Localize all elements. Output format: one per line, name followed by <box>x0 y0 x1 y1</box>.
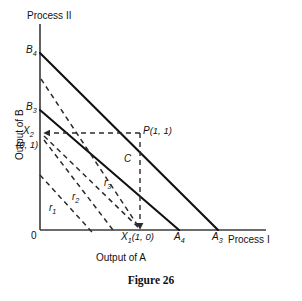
ray-label-r2: r2 <box>72 192 79 204</box>
figure-container: Process II Process I Output of B Output … <box>0 0 302 301</box>
ray-label-r2-sub: 2 <box>75 196 79 205</box>
point-label-p-text: P <box>143 125 150 136</box>
point-label-x2-text: X <box>23 125 30 136</box>
point-label-c: C <box>124 154 131 164</box>
point-label-b4-sub: 4 <box>33 49 37 58</box>
ray-label-r3-sub: 3 <box>107 182 111 191</box>
origin-label: 0 <box>31 231 37 241</box>
point-label-b4-text: B <box>26 44 33 55</box>
dashed-ray-r1 <box>40 175 92 232</box>
point-label-a3-text: A <box>212 231 219 242</box>
point-label-a4-text: A <box>174 231 181 242</box>
point-label-a3-sub: 3 <box>219 236 223 245</box>
point-label-b4: B4 <box>26 45 37 57</box>
point-label-b3-text: B <box>26 101 33 112</box>
point-label-b3: B3 <box>26 102 37 114</box>
ray-label-r1-sub: 1 <box>52 207 56 216</box>
point-label-a3: A3 <box>212 232 223 244</box>
axis-label-output-of-a: Output of A <box>96 252 146 263</box>
point-label-x1: X1(1, 0) <box>121 232 154 244</box>
axis-title-process-ii: Process II <box>27 10 71 21</box>
ray-label-r3: r3 <box>104 178 111 190</box>
point-label-x2: X2 <box>23 126 34 138</box>
point-coords-p: (1, 1) <box>150 125 172 136</box>
point-label-a4-sub: 4 <box>181 236 185 245</box>
point-label-a4: A4 <box>174 232 185 244</box>
figure-caption: Figure 26 <box>0 274 302 286</box>
point-label-x2-sub: 2 <box>30 130 34 139</box>
point-label-p: P(1, 1) <box>143 126 172 136</box>
ray-label-r1: r1 <box>49 203 56 215</box>
figure-diagram <box>0 0 302 301</box>
point-label-x1-text: X <box>121 231 128 242</box>
point-coords-x1: (1, 0) <box>132 231 154 242</box>
point-coords-x2: (0, 1) <box>16 140 38 150</box>
point-label-b3-sub: 3 <box>33 106 37 115</box>
axis-title-process-i: Process I <box>228 234 270 245</box>
